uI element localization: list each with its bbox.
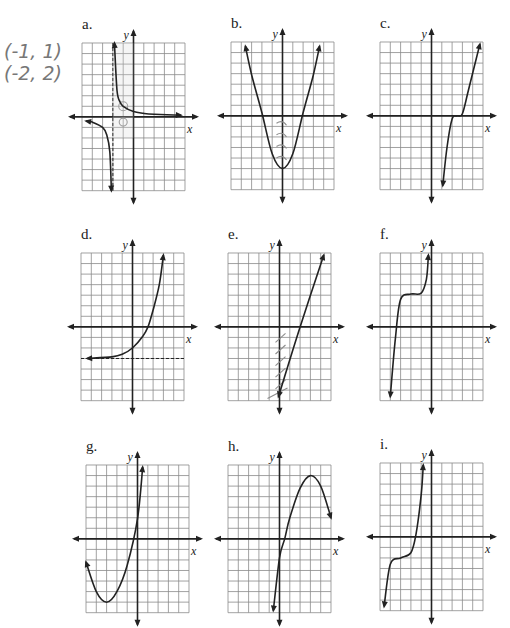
arrow-down-icon bbox=[131, 198, 137, 205]
arrow-up-icon bbox=[429, 449, 435, 456]
curve-arrow-icon bbox=[84, 119, 91, 125]
curve-arrow-icon bbox=[316, 44, 322, 51]
arrow-down-icon bbox=[280, 197, 286, 204]
arrow-right-icon bbox=[490, 534, 497, 540]
arrow-right-icon bbox=[490, 324, 497, 330]
pencil-marks bbox=[277, 122, 287, 160]
arrow-down-icon bbox=[277, 620, 283, 627]
coordinate-plane: xy bbox=[365, 448, 498, 626]
function-curve bbox=[86, 467, 143, 602]
y-axis-label: y bbox=[421, 238, 428, 252]
arrow-left-icon bbox=[67, 324, 74, 330]
coordinate-plane: xy bbox=[67, 28, 200, 206]
x-axis-label: x bbox=[190, 544, 197, 558]
arrow-up-icon bbox=[277, 239, 283, 246]
arrow-up-icon bbox=[429, 239, 435, 246]
arrow-right-icon bbox=[341, 113, 348, 119]
arrow-left-icon bbox=[214, 536, 221, 542]
arrow-left-icon bbox=[366, 324, 373, 330]
arrow-down-icon bbox=[277, 408, 283, 415]
function-curve bbox=[390, 255, 428, 396]
curve-arrow-icon bbox=[85, 355, 92, 361]
x-axis-label: x bbox=[332, 544, 339, 558]
arrow-right-icon bbox=[191, 324, 198, 330]
curve-arrow-icon bbox=[271, 605, 277, 612]
coordinate-plane: xy bbox=[213, 450, 346, 628]
arrow-up-icon bbox=[429, 28, 435, 35]
arrow-down-icon bbox=[429, 618, 435, 625]
coordinate-plane: xy bbox=[71, 450, 204, 628]
coordinate-plane: xy bbox=[66, 238, 199, 416]
curve-arrow-icon bbox=[244, 44, 250, 51]
curve-arrow-icon bbox=[425, 253, 431, 260]
x-axis-label: x bbox=[484, 542, 491, 556]
arrow-up-icon bbox=[131, 29, 137, 36]
y-axis-label: y bbox=[123, 28, 130, 42]
curve-arrow-icon bbox=[440, 180, 446, 187]
pencil-marks bbox=[268, 333, 288, 398]
y-axis-label: y bbox=[122, 238, 129, 252]
arrow-left-icon bbox=[366, 113, 373, 119]
coordinate-plane: xy bbox=[365, 27, 498, 205]
arrow-down-icon bbox=[135, 620, 141, 627]
coordinate-plane: xy bbox=[216, 27, 349, 205]
arrow-up-icon bbox=[130, 239, 136, 246]
arrow-up-icon bbox=[280, 28, 286, 35]
x-axis-label: x bbox=[185, 332, 192, 346]
arrow-left-icon bbox=[68, 114, 75, 120]
arrow-left-icon bbox=[366, 534, 373, 540]
curve-arrow-icon bbox=[85, 560, 91, 568]
arrow-left-icon bbox=[214, 324, 221, 330]
arrow-right-icon bbox=[338, 324, 345, 330]
handwritten-note: (-1, 1) (-2, 2) bbox=[4, 40, 62, 84]
x-axis-label: x bbox=[484, 332, 491, 346]
y-axis-label: y bbox=[421, 27, 428, 41]
arrow-left-icon bbox=[72, 536, 79, 542]
arrow-left-icon bbox=[217, 113, 224, 119]
curve-arrow-icon bbox=[476, 42, 482, 50]
x-axis-label: x bbox=[186, 122, 193, 136]
y-axis-label: y bbox=[272, 27, 279, 41]
curve-arrow-icon bbox=[327, 512, 333, 520]
x-axis-label: x bbox=[484, 121, 491, 135]
arrow-right-icon bbox=[192, 114, 199, 120]
arrow-right-icon bbox=[196, 536, 203, 542]
arrow-right-icon bbox=[490, 113, 497, 119]
arrow-up-icon bbox=[135, 451, 141, 458]
curve-arrow-icon bbox=[160, 253, 166, 260]
function-curve bbox=[273, 476, 331, 611]
y-axis-label: y bbox=[269, 238, 276, 252]
function-curve bbox=[279, 255, 324, 396]
curve-arrow-icon bbox=[319, 253, 325, 261]
handwritten-note-line: (-1, 1) bbox=[4, 40, 62, 62]
curve-arrow-icon bbox=[388, 391, 394, 398]
function-curve bbox=[443, 44, 480, 185]
curve-arrow-icon bbox=[382, 601, 388, 608]
arrow-right-icon bbox=[338, 536, 345, 542]
coordinate-plane: xy bbox=[213, 238, 346, 416]
y-axis-label: y bbox=[269, 450, 276, 464]
x-axis-label: x bbox=[335, 121, 342, 135]
arrow-up-icon bbox=[277, 451, 283, 458]
function-curve bbox=[87, 255, 163, 358]
coordinate-plane: xy bbox=[365, 238, 498, 416]
pencil-marks bbox=[113, 43, 134, 138]
y-axis-label: y bbox=[127, 450, 134, 464]
arrow-down-icon bbox=[429, 408, 435, 415]
handwritten-note-line: (-2, 2) bbox=[4, 62, 62, 84]
arrow-down-icon bbox=[429, 197, 435, 204]
y-axis-label: y bbox=[421, 448, 428, 462]
arrow-down-icon bbox=[130, 408, 136, 415]
curve-arrow-icon bbox=[139, 465, 145, 472]
x-axis-label: x bbox=[332, 332, 339, 346]
